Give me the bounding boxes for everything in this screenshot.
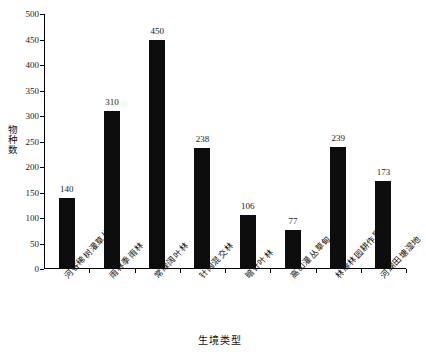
x-tick [316,269,317,273]
y-axis-title: 物种数 [6,125,16,155]
bar [330,147,346,269]
y-tick-label: 50 [30,239,39,248]
y-tick-label: 250 [26,137,40,146]
y-tick-label: 150 [26,188,40,197]
x-axis-title: 生境类型 [0,332,426,347]
bar-value-label: 239 [318,134,358,143]
x-axis-category-labels: 河谷稀树灌草丛雨林季雨林常绿阔叶林针阔混交林暗针叶林高山灌丛草甸林缘林园耕作旱地… [44,0,406,90]
bar-value-label: 173 [363,168,403,177]
bar-value-label: 238 [182,135,222,144]
y-tick-label: 400 [26,61,40,70]
y-tick [40,167,44,168]
bar [104,111,120,269]
bar-value-label: 140 [47,185,87,194]
y-tick-label: 450 [26,35,40,44]
y-tick-label: 200 [26,163,40,172]
y-tick-label: 0 [35,265,40,274]
bar-value-label: 77 [273,217,313,226]
x-tick [135,269,136,273]
bar [59,198,75,269]
y-tick-label: 350 [26,86,40,95]
x-tick [361,269,362,273]
x-tick [180,269,181,273]
y-tick-label: 100 [26,214,40,223]
bar-value-label: 106 [228,202,268,211]
bar-chart-figure: 物种数 050100150200250300350400450500 14031… [0,0,426,360]
y-tick [40,142,44,143]
y-tick [40,269,44,270]
bar-value-label: 310 [92,98,132,107]
y-tick [40,244,44,245]
y-tick [40,116,44,117]
y-tick [40,193,44,194]
y-tick-label: 500 [26,10,40,19]
y-tick-label: 300 [26,112,40,121]
x-tick [406,269,407,273]
y-tick [40,91,44,92]
y-tick [40,218,44,219]
x-tick [225,269,226,273]
x-tick [270,269,271,273]
bar [194,148,210,269]
x-tick [89,269,90,273]
